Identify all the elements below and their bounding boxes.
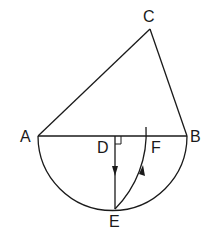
label-b: B <box>190 128 201 145</box>
segment-cb <box>150 29 187 136</box>
segment-ac <box>38 29 150 136</box>
semicircle-aeb <box>38 136 187 211</box>
arc-ef <box>115 127 146 209</box>
arrow-down-icon <box>112 166 118 176</box>
geometry-diagram: C A B D F E <box>0 0 219 242</box>
label-a: A <box>20 128 31 145</box>
right-angle-marker <box>115 136 121 144</box>
label-e: E <box>109 213 120 230</box>
label-c: C <box>143 8 155 25</box>
label-d: D <box>97 139 109 156</box>
label-f: F <box>151 139 161 156</box>
